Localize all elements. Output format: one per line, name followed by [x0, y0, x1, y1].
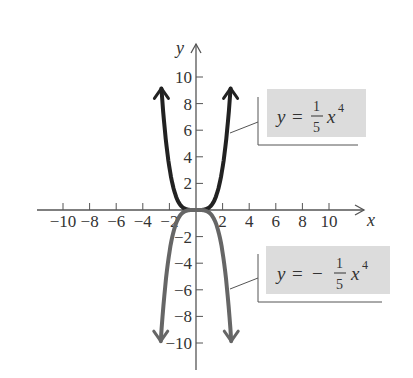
- y-tick-label: 8: [184, 95, 193, 114]
- y-tick-label: −6: [174, 281, 192, 300]
- eq-denominator: 5: [313, 120, 320, 135]
- eq-sign: −: [312, 263, 323, 284]
- x-tick-label: −10: [50, 212, 77, 231]
- x-tick-label: 6: [272, 212, 281, 231]
- eq-exponent: 4: [338, 101, 344, 115]
- x-tick-label: 4: [245, 212, 254, 231]
- eq-variable: x: [326, 106, 336, 127]
- eq-equals: =: [292, 106, 303, 127]
- eq-lhs-y: y: [275, 106, 286, 127]
- y-tick-label: −10: [165, 334, 192, 353]
- leader-line: [230, 122, 258, 133]
- x-tick-label: −4: [134, 212, 153, 231]
- y-tick-label: 2: [184, 174, 193, 193]
- equation-labels: y = 1 5 x 4 y = − 1 5 x 4: [230, 89, 390, 302]
- lower-equation-label: y = − 1 5 x 4: [230, 246, 390, 302]
- x-tick-label: 10: [321, 212, 338, 231]
- y-axis-label: y: [174, 38, 184, 58]
- eq-numerator: 1: [313, 99, 320, 114]
- x-tick-label: 2: [218, 212, 227, 231]
- y-tick-label: 6: [184, 121, 193, 140]
- eq-numerator: 1: [336, 256, 343, 271]
- y-tick-label: −8: [174, 307, 192, 326]
- eq-denominator: 5: [336, 277, 343, 292]
- eq-exponent: 4: [362, 258, 368, 272]
- upper-equation-label: y = 1 5 x 4: [230, 89, 366, 145]
- y-tick-label: 4: [184, 148, 193, 167]
- x-tick-label: −8: [81, 212, 99, 231]
- leader-line: [230, 278, 258, 289]
- eq-equals: =: [292, 263, 303, 284]
- axes: xy−10−8−6−4−2246810108642−2−4−6−8−10: [37, 38, 375, 370]
- x-tick-label: −6: [107, 212, 125, 231]
- y-tick-label: −2: [174, 228, 192, 247]
- function-graph: xy−10−8−6−4−2246810108642−2−4−6−8−10 y =…: [0, 0, 413, 378]
- x-axis-label: x: [366, 210, 375, 230]
- eq-lhs-y: y: [275, 263, 286, 284]
- x-tick-label: 8: [298, 212, 307, 231]
- eq-variable: x: [350, 263, 360, 284]
- y-tick-label: −4: [174, 254, 193, 273]
- y-tick-label: 10: [175, 68, 192, 87]
